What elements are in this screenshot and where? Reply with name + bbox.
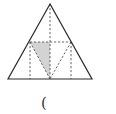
dashed-guide-lines bbox=[30, 4, 71, 79]
answer-parenthesis: ( bbox=[41, 95, 47, 111]
triangle-diagram bbox=[0, 0, 116, 90]
dashed-line bbox=[50, 42, 71, 79]
